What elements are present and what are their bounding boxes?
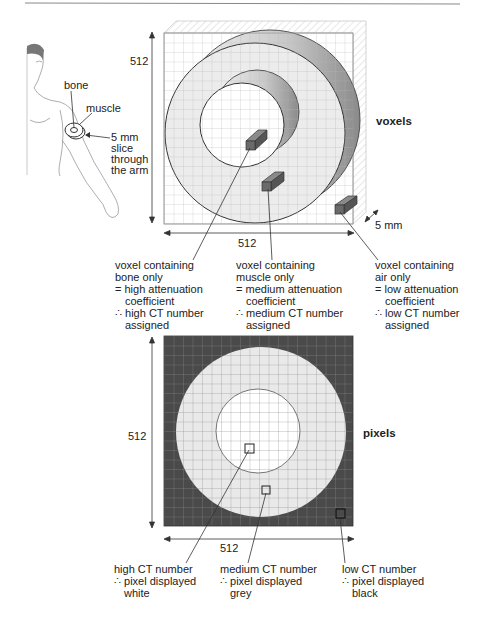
- voxel-muscle-annotation: voxel containing muscle only = medium at…: [236, 259, 343, 331]
- pixels-title: pixels: [363, 427, 396, 439]
- muscle-leader: [80, 113, 92, 124]
- bone-label: bone: [64, 79, 88, 91]
- voxels-title: voxels: [376, 115, 412, 127]
- slice-arrowhead: [85, 132, 90, 138]
- voxel-width-label: 512: [238, 237, 256, 249]
- muscle-label: muscle: [86, 102, 121, 114]
- voxel-depth-label: 5 mm: [375, 219, 403, 231]
- pixel-width-label: 512: [220, 542, 238, 554]
- pixel-grey-annotation: medium CT number ∴ pixel displayed grey: [220, 563, 317, 599]
- voxel-height-label: 512: [130, 55, 148, 67]
- arm-slice-icon: [65, 123, 85, 139]
- slice-label: 5 mm slice through the arm: [111, 132, 148, 176]
- pixel-image: [164, 336, 353, 526]
- pixel-height-arrow: [150, 337, 155, 528]
- voxel-width-arrow: [164, 231, 354, 236]
- air-voxel-leader: [340, 212, 378, 260]
- pixel-width-arrow: [164, 537, 354, 542]
- voxel-air-annotation: voxel containing air only = low attenuat…: [375, 259, 459, 331]
- pixel-black-annotation: low CT number ∴ pixel displayed black: [342, 563, 424, 599]
- voxel-bone-annotation: voxel containing bone only = high attenu…: [115, 259, 204, 331]
- pixel-white-annotation: high CT number ∴ pixel displayed white: [114, 563, 196, 599]
- voxel-height-arrow: [150, 32, 155, 223]
- pixel-height-label: 512: [128, 430, 146, 442]
- hair: [27, 44, 44, 60]
- top-rule: [25, 3, 460, 4]
